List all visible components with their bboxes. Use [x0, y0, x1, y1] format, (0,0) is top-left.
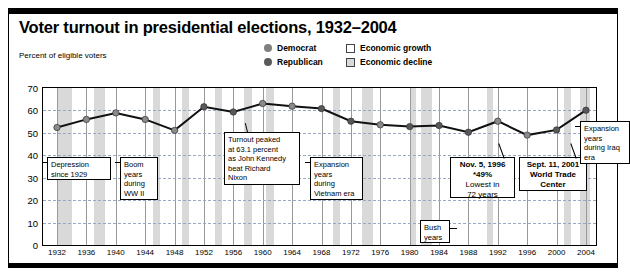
- democrat-dot-icon: [264, 44, 272, 52]
- callout-line: Turnout peaked: [228, 135, 296, 145]
- y-axis-tick-label: 0: [33, 240, 38, 251]
- data-point-marker: [436, 122, 442, 128]
- callout-line: years: [314, 170, 359, 180]
- boom-ww2-callout: BoomyearsduringWW II: [120, 157, 158, 200]
- callout-line: era: [584, 153, 626, 163]
- callout-line: beat Richard: [228, 164, 296, 174]
- legend-label: Democrat: [277, 43, 316, 53]
- callout-line: Nov. 5, 1996: [454, 160, 511, 170]
- data-point-marker: [171, 127, 177, 133]
- data-point-marker: [260, 100, 266, 106]
- y-axis-caption: Percent of eligible voters: [19, 51, 107, 60]
- data-point-marker: [113, 110, 119, 116]
- x-axis-tick-label: 2004: [577, 248, 595, 257]
- callout-leader-line: [305, 162, 311, 163]
- callout-line: Sept. 11, 2001: [523, 160, 583, 170]
- legend-label: Economic growth: [360, 43, 431, 53]
- x-axis-tick-label: 1964: [283, 248, 301, 257]
- iraq-expansion-callout: Expansionyearsduring Iraqera: [580, 121, 630, 164]
- legend-item-democrat: Democrat: [264, 43, 316, 53]
- y-axis-tick-label: 20: [27, 195, 38, 206]
- data-point-marker: [348, 118, 354, 124]
- callout-leader-line: [115, 162, 121, 163]
- x-axis-tick-label: 1992: [489, 248, 507, 257]
- legend-label: Republican: [277, 57, 323, 67]
- x-axis-tick-label: 1936: [77, 248, 95, 257]
- x-axis-tick-label: 1968: [313, 248, 331, 257]
- callout-line: during: [124, 179, 154, 189]
- y-axis-tick-label: 30: [27, 172, 38, 183]
- callout-line: Vietnam era: [314, 189, 359, 199]
- data-point-marker: [54, 124, 60, 130]
- x-axis-tick-label: 1984: [430, 248, 448, 257]
- kennedy-peak-callout: Turnout peakedat 63.1 percentas John Ken…: [224, 132, 300, 185]
- x-axis-tick-label: 1976: [371, 248, 389, 257]
- sept11-callout: Sept. 11, 2001World TradeCenter: [519, 157, 587, 191]
- callout-line: during: [314, 179, 359, 189]
- data-point-marker: [142, 116, 148, 122]
- legend-label: Economic decline: [360, 57, 432, 67]
- vietnam-expansion-callout: ExpansionyearsduringVietnam era: [310, 157, 363, 200]
- y-axis-tick-label: 10: [27, 217, 38, 228]
- y-axis-tick-label: 60: [27, 105, 38, 116]
- depression-callout: Depressionsince 1929: [47, 157, 111, 180]
- republican-dot-icon: [264, 58, 272, 66]
- x-axis-tick-label: 1948: [166, 248, 184, 257]
- callout-line: years: [124, 170, 154, 180]
- callout-line: World Trade: [523, 170, 583, 180]
- data-point-marker: [583, 107, 589, 113]
- data-point-marker: [553, 127, 559, 133]
- chart-figure: Voter turnout in presidential elections,…: [8, 8, 618, 268]
- x-axis-tick-label: 1996: [518, 248, 536, 257]
- callout-line: Lowest in: [454, 180, 511, 190]
- callout-line: *49%: [454, 170, 511, 180]
- x-axis-tick-label: 1932: [48, 248, 66, 257]
- legend-item-republican: Republican: [264, 57, 323, 67]
- bottom-rule: [9, 263, 617, 267]
- callout-line: as John Kennedy: [228, 154, 296, 164]
- callout-line: years: [584, 134, 626, 144]
- data-point-marker: [465, 129, 471, 135]
- x-axis-tick-label: 2000: [548, 248, 566, 257]
- callout-line: during Iraq: [584, 143, 626, 153]
- callout-line: WW II: [124, 189, 154, 199]
- y-axis-tick-label: 40: [27, 150, 38, 161]
- decline-square-icon: [346, 58, 355, 67]
- data-point-marker: [289, 103, 295, 109]
- growth-square-icon: [346, 44, 355, 53]
- x-axis-tick-label: 1944: [136, 248, 154, 257]
- callout-line: Bush: [424, 223, 446, 233]
- y-axis-ticks: 010203040506070: [9, 87, 38, 246]
- page-title: Voter turnout in presidential elections,…: [19, 18, 397, 37]
- callout-line: Boom: [124, 160, 154, 170]
- lowest-turnout-1996-callout: Nov. 5, 1996*49%Lowest in72 years: [450, 157, 515, 198]
- callout-line: Depression: [51, 160, 107, 170]
- callout-line: Expansion: [584, 124, 626, 134]
- x-axis-tick-label: 1952: [195, 248, 213, 257]
- x-axis-ticks: 1932193619401944194819521956196019641968…: [42, 248, 597, 262]
- callout-leader-line: [42, 162, 48, 163]
- y-axis-tick-label: 70: [27, 83, 38, 94]
- x-axis-tick-label: 1972: [342, 248, 360, 257]
- callout-line: at 63.1 percent: [228, 145, 296, 155]
- x-axis-tick-label: 1960: [254, 248, 272, 257]
- data-point-marker: [201, 104, 207, 110]
- legend-item-economic-growth: Economic growth: [346, 43, 431, 53]
- callout-line: Nixon: [228, 173, 296, 183]
- callout-line: Expansion: [314, 160, 359, 170]
- callout-line: 72 years: [454, 190, 511, 200]
- data-point-marker: [377, 122, 383, 128]
- data-point-marker: [83, 116, 89, 122]
- data-point-marker: [495, 118, 501, 124]
- legend-item-economic-decline: Economic decline: [346, 57, 432, 67]
- callout-line: years: [424, 233, 446, 243]
- x-axis-tick-label: 1988: [460, 248, 478, 257]
- data-point-marker: [407, 123, 413, 129]
- y-axis-tick-label: 50: [27, 127, 38, 138]
- x-axis-tick-label: 1980: [401, 248, 419, 257]
- data-point-marker: [318, 105, 324, 111]
- top-rule: [9, 9, 617, 14]
- x-axis-tick-label: 1956: [224, 248, 242, 257]
- x-axis-tick-label: 1940: [107, 248, 125, 257]
- callout-line: Center: [523, 180, 583, 190]
